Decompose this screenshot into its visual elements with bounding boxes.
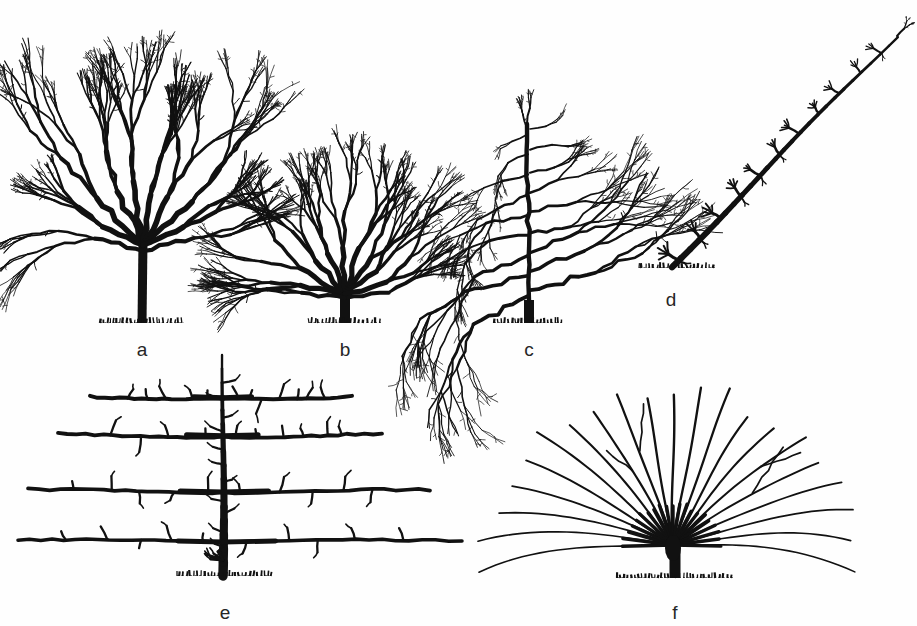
panel-label-d: d (666, 290, 677, 309)
panel-label-c: c (524, 340, 534, 359)
panel-label-a: a (137, 340, 148, 359)
tree-forms-illustration (0, 0, 917, 626)
panel-label-f: f (672, 603, 677, 622)
figure-root: a b c d e f (0, 0, 917, 626)
panel-label-b: b (340, 340, 351, 359)
panel-label-e: e (220, 603, 231, 622)
